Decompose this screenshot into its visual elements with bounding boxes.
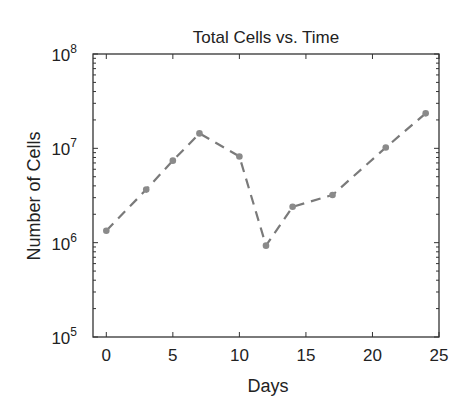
y-tick-label: 105 (51, 325, 77, 348)
data-point-markers (103, 110, 429, 249)
data-point (196, 130, 203, 137)
y-axis-tick-labels: 105106107108 (51, 42, 77, 348)
y-axis-label: Number of Cells (24, 131, 44, 260)
x-tick-label: 20 (363, 346, 382, 365)
x-tick-label: 0 (102, 346, 111, 365)
major-ticks (93, 54, 439, 337)
data-point (170, 157, 177, 164)
minor-ticks (93, 58, 439, 308)
line-chart: Total Cells vs. Time 0510152025 10510610… (0, 0, 472, 415)
data-point (236, 153, 243, 160)
x-tick-label: 10 (230, 346, 249, 365)
x-tick-label: 25 (430, 346, 449, 365)
y-tick-label: 106 (51, 231, 77, 254)
x-tick-label: 5 (168, 346, 177, 365)
series-line-total-cells (106, 113, 425, 245)
y-tick-label: 108 (51, 42, 77, 65)
chart-title: Total Cells vs. Time (193, 28, 339, 47)
data-point (263, 242, 270, 249)
data-point (143, 186, 150, 193)
y-tick-label: 107 (51, 136, 77, 159)
x-tick-label: 15 (296, 346, 315, 365)
data-point (422, 110, 429, 117)
data-point (103, 227, 110, 234)
x-axis-label: Days (247, 376, 288, 396)
data-point (289, 204, 296, 211)
data-point (382, 144, 389, 151)
x-axis-tick-labels: 0510152025 (102, 346, 449, 365)
plot-area-frame (93, 54, 439, 337)
data-point (329, 192, 336, 199)
